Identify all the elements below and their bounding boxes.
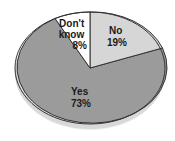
pie-chart: Don't know 8% No 19% Yes 73% [0, 0, 175, 141]
label-no-name: No [109, 25, 122, 36]
label-yes-pct: 73% [71, 98, 91, 109]
label-no-pct: 19% [107, 37, 127, 48]
label-dont-know-line2: know [59, 29, 85, 40]
label-dont-know-line1: Don't [59, 18, 85, 29]
label-yes-name: Yes [71, 86, 89, 97]
label-dont-know-pct: 8% [73, 40, 88, 51]
label-yes: Yes 73% [71, 86, 91, 109]
label-no: No 19% [107, 25, 127, 48]
